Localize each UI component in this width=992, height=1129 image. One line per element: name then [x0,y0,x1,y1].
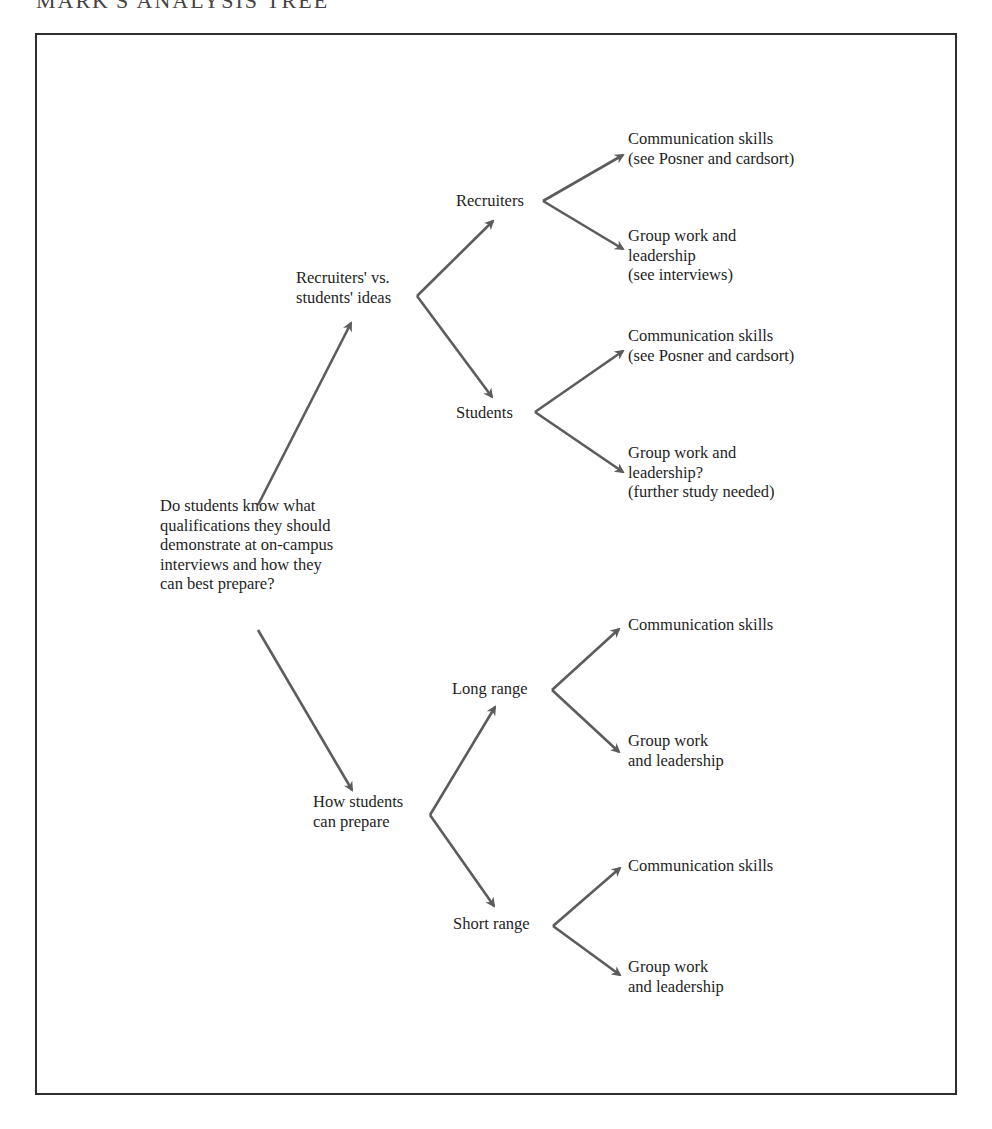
arrow-students-to-comm [535,351,623,412]
tree-arrows [0,0,992,1129]
arrow-ideas-to-students [417,296,492,397]
node-students: Students [456,403,513,423]
leaf-long-group-work: Group work and leadership [628,731,724,770]
arrow-root-to-prepare [258,630,352,790]
arrow-prepare-to-short [430,815,494,906]
arrow-recruiters-to-group [543,201,623,249]
arrow-long-to-group [552,690,619,752]
arrow-prepare-to-long [430,707,495,815]
arrow-long-to-comm [552,629,619,690]
leaf-short-communication: Communication skills [628,856,773,876]
arrow-recruiters-to-comm [543,155,623,201]
node-recruiters: Recruiters [456,191,524,211]
node-long-range: Long range [452,679,528,699]
root-question: Do students know what qualifications the… [160,496,333,594]
leaf-recruiters-communication: Communication skills (see Posner and car… [628,129,794,168]
leaf-recruiters-group-work: Group work and leadership (see interview… [628,226,736,285]
leaf-short-group-work: Group work and leadership [628,957,724,996]
node-how-students-prepare: How students can prepare [313,792,403,831]
leaf-students-communication: Communication skills (see Posner and car… [628,326,794,365]
arrow-root-to-ideas [258,323,351,505]
arrow-students-to-group [535,412,623,472]
node-recruiters-vs-students: Recruiters' vs. students' ideas [296,268,391,307]
arrow-ideas-to-recruiters [417,221,493,296]
arrow-short-to-group [553,926,620,975]
leaf-long-communication: Communication skills [628,615,773,635]
arrow-short-to-comm [553,868,620,926]
leaf-students-group-work: Group work and leadership? (further stud… [628,443,775,502]
node-short-range: Short range [453,914,530,934]
